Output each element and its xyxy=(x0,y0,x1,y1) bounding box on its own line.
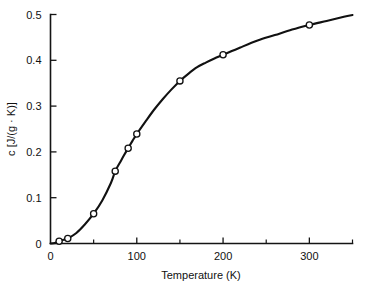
data-point-marker xyxy=(177,78,183,84)
data-point-marker xyxy=(125,145,131,151)
chart-plot-area: 00.10.20.30.40.5 0100200300 Temperature … xyxy=(0,0,376,287)
data-point-marker xyxy=(91,211,97,217)
y-tick-label: 0.1 xyxy=(26,192,41,204)
x-tick-label: 300 xyxy=(300,250,318,262)
y-tick-label: 0.5 xyxy=(26,9,41,21)
data-point-marker xyxy=(134,131,140,137)
y-tick-label: 0.2 xyxy=(26,146,41,158)
chart-figure: 00.10.20.30.40.5 0100200300 Temperature … xyxy=(0,0,376,287)
data-point-marker xyxy=(220,52,226,58)
x-tick-label: 100 xyxy=(128,250,146,262)
y-tick-label: 0.3 xyxy=(26,100,41,112)
data-point-marker xyxy=(306,22,312,28)
x-tick-label: 0 xyxy=(47,250,53,262)
y-axis-title: c [J/(g · K)] xyxy=(5,102,17,156)
x-tick-label: 200 xyxy=(214,250,232,262)
y-tick-label: 0 xyxy=(35,238,41,250)
data-point-marker xyxy=(56,238,62,244)
y-tick-label: 0.4 xyxy=(26,54,41,66)
data-point-marker xyxy=(65,235,71,241)
data-point-marker xyxy=(112,168,118,174)
x-axis-title: Temperature (K) xyxy=(161,269,240,281)
